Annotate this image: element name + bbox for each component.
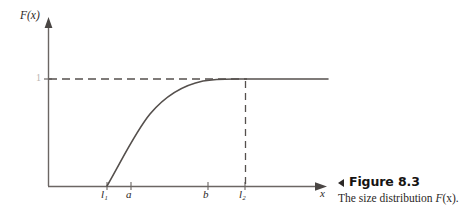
x-tick-label-a: a	[126, 189, 132, 200]
figure-number-label: Figure 8.3	[349, 174, 420, 189]
caption-suffix-text: (x).	[442, 192, 458, 204]
x-axis-label: x	[320, 188, 325, 199]
y-tick-label-one: 1	[36, 73, 41, 83]
y-axis-label: F(x)	[20, 10, 40, 22]
figure-caption-heading: Figure 8.3	[338, 174, 474, 189]
figure-8-3: F(x) x 1 l₁ a b l₂ Figure 8.3 The size d…	[0, 0, 475, 224]
x-tick-label-b: b	[203, 189, 209, 200]
caption-prefix-text: The size distribution	[338, 192, 435, 204]
y-axis-arrowhead	[45, 17, 53, 28]
left-triangle-icon	[338, 179, 344, 187]
distribution-curve	[107, 79, 328, 186]
figure-caption: Figure 8.3 The size distribution F(x).	[338, 174, 474, 205]
figure-caption-text: The size distribution F(x).	[338, 192, 474, 205]
x-tick-label-l1: l₁	[101, 189, 108, 200]
x-tick-label-l2: l₂	[239, 189, 246, 200]
